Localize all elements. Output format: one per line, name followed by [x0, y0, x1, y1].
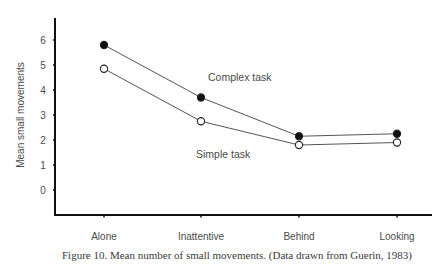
y-axis-label: Mean small movements — [15, 62, 26, 168]
open-circle-marker — [393, 139, 400, 146]
filled-circle-marker — [197, 94, 204, 101]
series-group — [100, 41, 400, 148]
open-circle-marker — [100, 65, 107, 72]
filled-circle-marker — [295, 133, 302, 140]
y-tick-label: 3 — [40, 110, 46, 121]
open-circle-marker — [295, 141, 302, 148]
x-tick-label: Looking — [379, 231, 414, 242]
y-tick-label: 1 — [40, 160, 46, 171]
annotation-complex-task: Complex task — [208, 71, 272, 83]
x-tick-label: Behind — [283, 231, 314, 242]
filled-circle-marker — [100, 41, 107, 48]
figure-caption: Figure 10. Mean number of small movement… — [62, 249, 412, 262]
y-tick-label: 0 — [40, 185, 46, 196]
x-axis: AloneInattentiveBehindLooking — [54, 215, 432, 242]
x-tick-label: Alone — [91, 231, 117, 242]
y-tick-label: 6 — [40, 35, 46, 46]
annotation-simple-task: Simple task — [196, 148, 251, 160]
filled-circle-marker — [393, 130, 400, 137]
y-tick-label: 5 — [40, 60, 46, 71]
series-line-complex — [104, 45, 397, 136]
x-tick-label: Inattentive — [178, 231, 225, 242]
y-tick-label: 4 — [40, 85, 46, 96]
y-tick-label: 2 — [40, 135, 46, 146]
y-axis: 0123456 — [40, 18, 56, 216]
open-circle-marker — [197, 118, 204, 125]
line-chart: 0123456 AloneInattentiveBehindLooking Me… — [0, 0, 446, 280]
